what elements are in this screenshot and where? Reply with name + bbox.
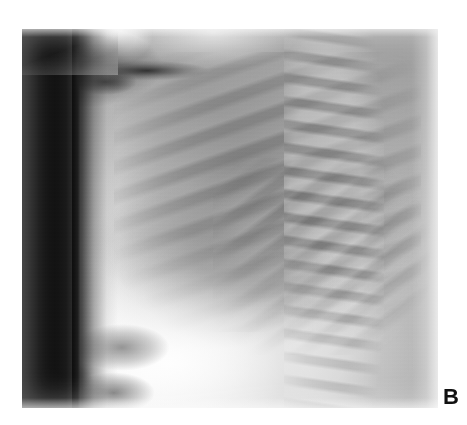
film-vignette-layer: [22, 29, 438, 408]
panel-label: B: [443, 386, 459, 408]
chest-radiograph-image: [22, 29, 438, 408]
figure-panel: B: [0, 0, 467, 425]
